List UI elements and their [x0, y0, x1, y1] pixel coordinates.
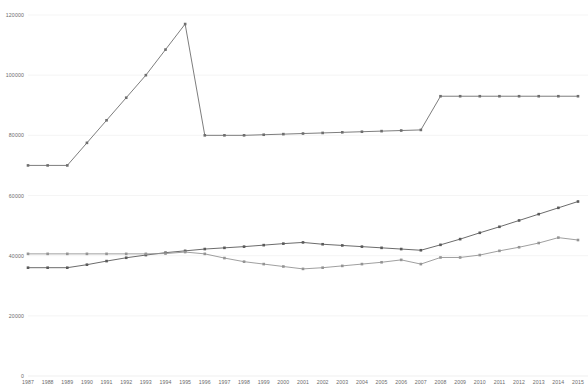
data-point-marker [223, 257, 226, 260]
y-axis-tick-label: 20000 [0, 313, 24, 319]
x-axis-tick-label: 2009 [450, 379, 470, 385]
data-point-marker [321, 243, 324, 246]
x-axis-tick-label: 2003 [332, 379, 352, 385]
data-point-marker [86, 263, 89, 266]
data-point-marker [125, 253, 128, 256]
x-axis-tick-label: 1987 [18, 379, 38, 385]
x-axis-tick-label: 2008 [431, 379, 451, 385]
data-point-marker [400, 129, 403, 132]
data-point-marker [184, 251, 187, 254]
y-axis-tick-label: 100000 [0, 72, 24, 78]
x-axis-tick-label: 2014 [548, 379, 568, 385]
data-point-marker [478, 95, 481, 98]
x-axis-tick-label: 1992 [116, 379, 136, 385]
x-axis-tick-label: 1998 [234, 379, 254, 385]
x-axis-tick-label: 1988 [38, 379, 58, 385]
data-point-marker [282, 133, 285, 136]
x-axis-tick-label: 1991 [97, 379, 117, 385]
data-point-marker [86, 253, 89, 256]
x-axis-tick-label: 2007 [411, 379, 431, 385]
data-point-marker [66, 266, 69, 269]
data-point-marker [321, 266, 324, 269]
data-point-marker [420, 249, 423, 252]
data-point-marker [27, 266, 30, 269]
x-axis-tick-label: 2012 [509, 379, 529, 385]
data-point-marker [400, 248, 403, 251]
data-point-marker [518, 95, 521, 98]
data-point-marker [459, 256, 462, 259]
data-point-marker [46, 253, 49, 256]
y-axis-tick-label: 80000 [0, 132, 24, 138]
data-point-marker [380, 261, 383, 264]
data-point-marker [557, 95, 560, 98]
data-point-marker [518, 246, 521, 249]
gridline-group [28, 15, 588, 376]
x-axis-tick-label: 2010 [470, 379, 490, 385]
x-axis-tick-label: 2001 [293, 379, 313, 385]
x-axis-tick-label: 2002 [313, 379, 333, 385]
x-axis-tick-label: 1999 [254, 379, 274, 385]
data-point-marker [145, 74, 148, 77]
data-point-marker [361, 130, 364, 133]
data-point-marker [478, 232, 481, 235]
line-chart: 020000400006000080000100000120000 198719… [0, 0, 588, 390]
data-point-marker [361, 245, 364, 248]
data-point-marker [537, 242, 540, 245]
data-point-marker [498, 250, 501, 253]
data-point-marker [302, 268, 305, 271]
x-axis-tick-label: 2006 [391, 379, 411, 385]
data-point-marker [537, 213, 540, 216]
x-axis-tick-label: 2011 [489, 379, 509, 385]
x-axis-tick-label: 2000 [273, 379, 293, 385]
data-point-marker [86, 142, 89, 145]
series-line-series-middle [28, 202, 578, 268]
data-point-marker [518, 219, 521, 222]
data-point-marker [262, 244, 265, 247]
data-point-marker [557, 236, 560, 239]
data-point-marker [46, 164, 49, 167]
data-point-marker [262, 263, 265, 266]
data-point-marker [105, 253, 108, 256]
data-point-marker [203, 248, 206, 251]
x-axis-tick-label: 2015 [568, 379, 588, 385]
data-point-marker [203, 134, 206, 137]
y-axis-tick-label: 40000 [0, 253, 24, 259]
data-point-marker [380, 130, 383, 133]
x-axis-tick-label: 1989 [57, 379, 77, 385]
data-point-marker [459, 238, 462, 241]
data-point-marker [321, 132, 324, 135]
data-point-marker [125, 256, 128, 259]
x-axis-tick-label: 1990 [77, 379, 97, 385]
data-point-marker [577, 239, 580, 242]
data-point-marker [341, 244, 344, 247]
data-point-marker [262, 133, 265, 136]
data-point-marker [459, 95, 462, 98]
data-point-marker [145, 253, 148, 256]
data-point-marker [223, 247, 226, 250]
data-point-marker [243, 260, 246, 263]
series-line-series-upper [28, 24, 578, 165]
data-point-marker [164, 252, 167, 255]
data-point-marker [164, 48, 167, 51]
x-axis-tick-label: 1993 [136, 379, 156, 385]
y-axis-tick-label: 60000 [0, 193, 24, 199]
data-point-marker [302, 241, 305, 244]
y-axis-tick-label: 120000 [0, 12, 24, 18]
x-axis-tick-label: 1994 [156, 379, 176, 385]
data-point-marker [557, 207, 560, 210]
data-point-marker [380, 247, 383, 250]
data-point-marker [105, 260, 108, 263]
data-point-marker [400, 259, 403, 262]
data-point-marker [46, 266, 49, 269]
chart-plot-area [0, 0, 588, 390]
data-point-marker [203, 253, 206, 256]
x-axis-tick-label: 1995 [175, 379, 195, 385]
data-point-marker [66, 253, 69, 256]
data-point-marker [439, 95, 442, 98]
data-point-marker [341, 131, 344, 134]
data-point-marker [223, 134, 226, 137]
data-point-marker [105, 119, 108, 122]
data-point-marker [498, 225, 501, 228]
x-axis-tick-label: 1997 [214, 379, 234, 385]
data-point-marker [537, 95, 540, 98]
